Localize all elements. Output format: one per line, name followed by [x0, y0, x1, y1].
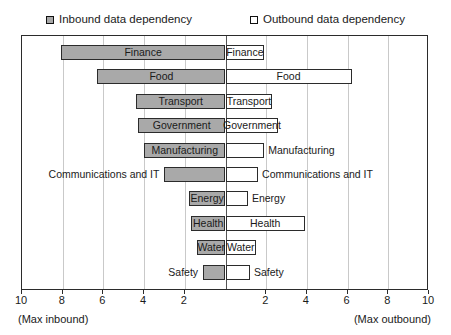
inbound-bar-label: Transport — [158, 96, 203, 107]
bar-row: EnergyEnergy — [22, 191, 427, 206]
hollow-square-icon — [250, 16, 258, 24]
outbound-bar: Transport — [226, 94, 273, 109]
bar-row: ManufacturingManufacturing — [22, 143, 427, 158]
inbound-bar: Water — [197, 240, 225, 255]
diverging-bar-chart: Inbound data dependency Outbound data de… — [0, 0, 451, 335]
inbound-bar-label: Manufacturing — [152, 145, 219, 156]
axis-caption-right: (Max outbound) — [354, 313, 431, 326]
x-axis: 108642246810 — [21, 290, 428, 308]
axis-tick-label: 10 — [422, 294, 434, 307]
outbound-bar-label: Health — [250, 218, 280, 229]
bar-row: HealthHealth — [22, 216, 427, 231]
axis-tick-label: 6 — [344, 294, 350, 307]
legend-label-outbound: Outbound data dependency — [263, 13, 405, 26]
outbound-bar — [226, 265, 250, 280]
inbound-bar — [203, 265, 225, 280]
axis-tick-label: 4 — [140, 294, 146, 307]
chart-legend: Inbound data dependency Outbound data de… — [0, 11, 451, 31]
inbound-bar-label: Safety — [168, 266, 198, 279]
axis-tick-label: 2 — [181, 294, 187, 307]
outbound-bar: Water — [226, 240, 257, 255]
inbound-bar-label: Water — [197, 242, 225, 253]
outbound-bar-label: Safety — [254, 266, 284, 279]
bar-row: TransportTransport — [22, 94, 427, 109]
legend-item-outbound: Outbound data dependency — [250, 13, 405, 26]
outbound-bar-label: Energy — [252, 192, 285, 205]
outbound-bar-label: Communications and IT — [262, 168, 373, 181]
inbound-bar-label: Health — [193, 218, 223, 229]
legend-item-inbound: Inbound data dependency — [46, 13, 192, 26]
filled-square-icon — [46, 16, 54, 24]
plot-area: FinanceFinanceFoodFoodTransportTransport… — [21, 35, 428, 290]
inbound-bar-label: Energy — [191, 193, 224, 204]
inbound-bar: Finance — [61, 45, 226, 60]
axis-tick-label: 8 — [59, 294, 65, 307]
outbound-bar — [226, 167, 259, 182]
outbound-bar-label: Water — [227, 242, 255, 253]
bar-row: GovernmentGovernment — [22, 118, 427, 133]
outbound-bar: Food — [226, 69, 352, 84]
inbound-bar-label: Government — [153, 120, 211, 131]
axis-tick-label: 6 — [99, 294, 105, 307]
legend-label-inbound: Inbound data dependency — [59, 13, 192, 26]
axis-tick-label: 2 — [262, 294, 268, 307]
inbound-bar: Energy — [189, 191, 226, 206]
inbound-bar: Transport — [136, 94, 226, 109]
bar-row: WaterWater — [22, 240, 427, 255]
bar-row: FoodFood — [22, 69, 427, 84]
inbound-bar-label: Communications and IT — [49, 168, 160, 181]
outbound-bar — [226, 191, 248, 206]
axis-tick-label: 10 — [15, 294, 27, 307]
inbound-bar-label: Food — [149, 71, 173, 82]
outbound-bar-label: Food — [277, 71, 301, 82]
axis-tick-label: 4 — [303, 294, 309, 307]
outbound-bar: Health — [226, 216, 305, 231]
outbound-bar-label: Government — [223, 120, 281, 131]
inbound-bar: Food — [97, 69, 225, 84]
inbound-bar — [164, 167, 225, 182]
axis-caption-left: (Max inbound) — [18, 313, 88, 326]
bar-row: Communications and ITCommunications and … — [22, 167, 427, 182]
outbound-bar-label: Finance — [226, 47, 263, 58]
axis-tick-label: 8 — [384, 294, 390, 307]
inbound-bar-label: Finance — [124, 47, 161, 58]
bar-row: FinanceFinance — [22, 45, 427, 60]
outbound-bar: Government — [226, 118, 279, 133]
inbound-bar: Government — [138, 118, 226, 133]
outbound-bar: Finance — [226, 45, 265, 60]
inbound-bar: Health — [191, 216, 226, 231]
bar-row: SafetySafety — [22, 265, 427, 280]
outbound-bar-label: Transport — [227, 96, 272, 107]
outbound-bar — [226, 143, 265, 158]
outbound-bar-label: Manufacturing — [268, 144, 335, 157]
inbound-bar: Manufacturing — [144, 143, 225, 158]
